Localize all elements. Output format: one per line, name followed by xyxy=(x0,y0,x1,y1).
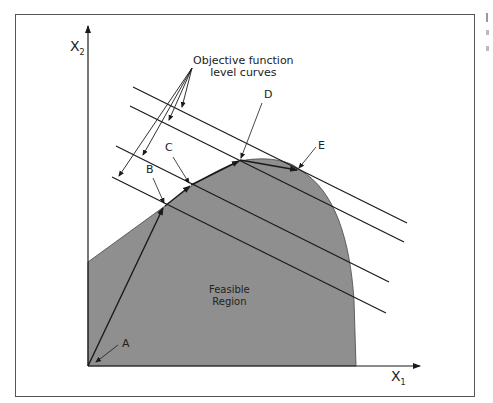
margin-text-fragment xyxy=(486,46,489,51)
callout-arrows xyxy=(119,68,192,176)
point-label-e: E xyxy=(318,140,325,152)
feasible-region xyxy=(88,159,356,366)
x-axis-label: X1 xyxy=(391,370,406,389)
margin-text-fragment xyxy=(486,13,488,22)
margin-text-fragment xyxy=(486,30,489,35)
point-label-c: C xyxy=(165,142,173,154)
point-label-d: D xyxy=(264,89,272,101)
y-axis-label: X2 xyxy=(70,40,85,59)
callout-label: Objective function level curves xyxy=(193,55,294,79)
point-label-a: A xyxy=(122,338,130,350)
feasible-region-label: Feasible Region xyxy=(209,284,250,308)
point-label-b: B xyxy=(146,164,154,176)
